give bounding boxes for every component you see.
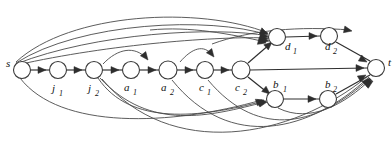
node-label-t: t [388,56,392,68]
graph-node-s[interactable] [14,62,31,79]
node-label-c1: c [199,81,204,93]
graph-edge [336,42,370,61]
graph-edge [103,50,146,64]
graph-figure: sj1j2a1a2c1c2d1d2b1b2t [0,0,392,167]
graph-canvas: sj1j2a1a2c1c2d1d2b1b2t [0,0,392,167]
graph-node-d1[interactable] [269,29,286,46]
node-label-c2: c [235,81,240,93]
graph-node-j1[interactable] [50,62,67,79]
node-label-j2: j [86,82,91,94]
arrowhead-icon [221,67,229,74]
graph-node-a1[interactable] [123,62,140,79]
arrowhead-icon [343,26,352,34]
graph-node-b1[interactable] [267,91,284,108]
node-sublabel-a1: 1 [133,88,137,97]
node-sublabel-b2: 2 [333,85,337,94]
graph-edge [16,32,268,64]
graph-node-t[interactable] [368,60,385,77]
arrowhead-icon [309,33,317,40]
node-label-j1: j [50,82,55,94]
node-sublabel-j2: 2 [95,89,99,98]
node-sublabel-d1: 1 [293,47,297,56]
node-sublabel-c1: 1 [207,88,211,97]
node-label-b2: b [325,78,331,90]
node-sublabel-j1: 1 [59,89,63,98]
node-sublabel-c2: 2 [243,88,247,97]
graph-node-c1[interactable] [197,62,214,79]
arrowhead-icon [206,49,216,59]
node-label-b1: b [273,78,279,90]
graph-node-j2[interactable] [86,62,103,79]
arrowhead-icon [308,96,316,103]
node-label-d2: d [325,40,331,52]
node-sublabel-a2: 2 [170,88,174,97]
arrowhead-icon [140,52,150,62]
graph-edge [150,29,266,42]
arrowhead-icon [74,67,82,74]
graph-edge [250,68,367,70]
node-label-s: s [6,57,10,69]
edge-layer [16,17,371,132]
graph-node-c2[interactable] [232,61,250,79]
arrowhead-icon [185,67,193,74]
arrowhead-icon [38,67,46,74]
node-label-d1: d [285,40,291,52]
node-sublabel-b1: 1 [283,85,287,94]
graph-edge [180,49,212,62]
arrowhead-icon [356,65,364,72]
graph-node-a2[interactable] [159,61,177,79]
node-label-a1: a [124,81,130,93]
arrowhead-icon [111,67,119,74]
arrowhead-icon [148,67,156,74]
node-label-a2: a [161,81,167,93]
node-sublabel-d2: 2 [333,47,337,56]
